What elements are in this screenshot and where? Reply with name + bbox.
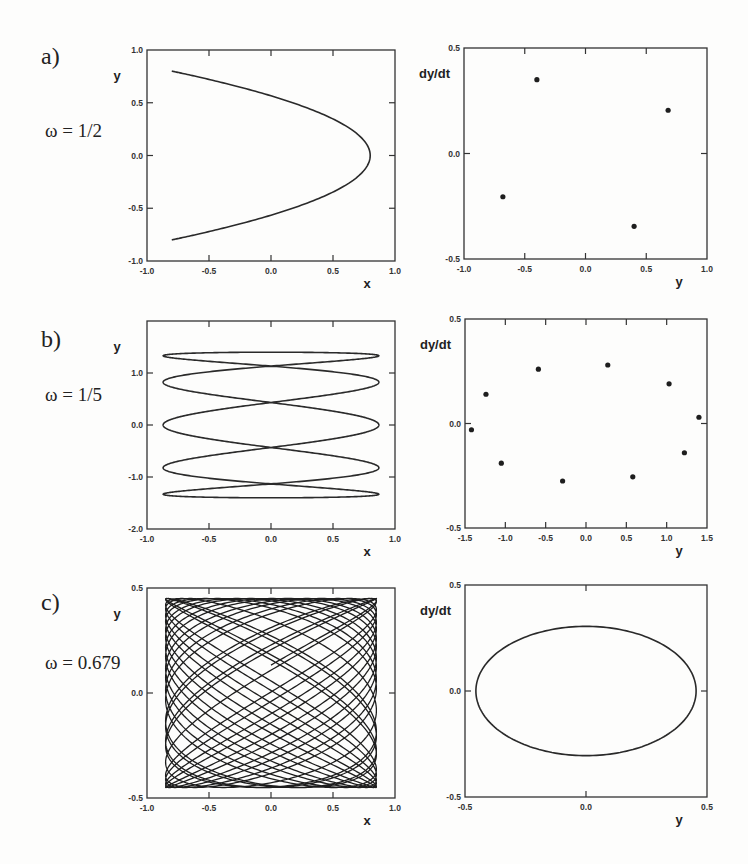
y-tick-label: 0.5 [449,314,461,324]
data-point [500,194,505,199]
y-tick-label: 1.0 [131,368,143,378]
data-point [666,108,671,113]
data-point [605,362,610,367]
trajectory-curve [172,71,370,240]
x-axis-title: x [363,276,371,291]
x-tick-label: 0.0 [580,264,592,274]
data-point [499,461,504,466]
x-tick-label: -1.0 [140,266,155,276]
x-tick-label: 0.0 [265,266,277,276]
x-tick-label: 0.5 [620,533,632,543]
x-tick-label: 0.0 [580,533,592,543]
trajectory-curve [163,352,379,498]
y-tick-label: -1.0 [128,256,143,266]
y-tick-label: 0.0 [448,149,460,159]
x-tick-label: -0.5 [538,533,553,543]
plot-b-phase: -1.5-1.0-0.50.00.51.01.5-0.50.00.5ydy/dt [420,314,713,558]
x-tick-label: 0.5 [327,803,339,813]
x-tick-label: 1.0 [661,533,673,543]
plot-a-xy: -1.0-0.50.00.51.0-1.0-0.50.00.51.0xy [113,45,401,291]
data-point [536,367,541,372]
data-point [696,415,701,420]
data-point [632,224,637,229]
data-point [682,450,687,455]
x-tick-label: -1.5 [458,533,473,543]
x-tick-label: -0.5 [202,534,217,544]
x-tick-label: -1.0 [457,264,472,274]
y-tick-label: 0.0 [449,419,461,429]
y-axis-title: dy/dt [420,603,452,618]
trajectory-curve [166,599,377,788]
y-axis-title: dy/dt [419,66,451,81]
y-tick-label: 0.0 [131,688,143,698]
y-tick-label: -0.5 [128,203,143,213]
plot-c-phase: -0.50.00.5-0.50.00.5ydy/dt [420,580,713,827]
data-point [630,474,635,479]
x-axis-title: x [363,544,371,559]
x-tick-label: 0.5 [640,264,652,274]
x-tick-label: -0.5 [458,802,473,812]
x-tick-label: 0.0 [265,803,277,813]
y-tick-label: -1.0 [128,472,143,482]
figure-canvas: -1.0-0.50.00.51.0-1.0-0.50.00.51.0xy-1.0… [0,0,748,864]
y-tick-label: -2.0 [128,524,143,534]
plot-b-xy: -1.0-0.50.00.51.0-2.0-1.00.01.0xy [113,321,401,559]
x-axis-title: y [675,812,683,827]
x-tick-label: -0.5 [517,264,532,274]
y-tick-label: 0.5 [449,580,461,590]
axes-frame [465,585,707,797]
x-tick-label: -1.0 [498,533,513,543]
x-tick-label: 1.0 [701,264,713,274]
data-point [666,381,671,386]
plot-c-xy: -1.0-0.50.00.51.0-0.50.00.5xy [113,583,401,828]
x-tick-label: 1.0 [389,534,401,544]
x-tick-label: 1.5 [701,533,713,543]
y-tick-label: 0.0 [131,420,143,430]
trajectory-curve [476,626,696,755]
y-tick-label: 1.0 [131,45,143,55]
data-point [469,427,474,432]
data-point [534,77,539,82]
x-tick-label: 0.5 [701,802,713,812]
y-tick-label: 0.5 [131,583,143,593]
x-tick-label: -0.5 [202,266,217,276]
plot-a-phase: -1.0-0.50.00.51.0-0.50.00.5ydy/dt [419,43,713,289]
y-tick-label: 0.0 [131,151,143,161]
x-axis-title: x [363,813,371,828]
data-point [560,478,565,483]
y-axis-title: y [113,339,121,354]
x-tick-label: -1.0 [140,803,155,813]
y-axis-title: y [113,68,121,83]
x-tick-label: 1.0 [389,803,401,813]
y-axis-title: y [113,606,121,621]
x-tick-label: 0.0 [580,802,592,812]
y-tick-label: -0.5 [446,523,461,533]
y-tick-label: -0.5 [128,793,143,803]
y-tick-label: -0.5 [445,254,460,264]
axes-frame [465,319,707,528]
x-tick-label: 1.0 [389,266,401,276]
data-point [483,392,488,397]
x-tick-label: 0.0 [265,534,277,544]
y-tick-label: 0.0 [449,686,461,696]
x-axis-title: y [675,274,683,289]
y-tick-label: -0.5 [446,792,461,802]
x-tick-label: 0.5 [327,266,339,276]
x-axis-title: y [675,543,683,558]
x-tick-label: -0.5 [202,803,217,813]
y-tick-label: 0.5 [448,43,460,53]
axes-frame [464,48,707,259]
y-axis-title: dy/dt [420,337,452,352]
x-tick-label: -1.0 [140,534,155,544]
x-tick-label: 0.5 [327,534,339,544]
axes-frame [147,50,395,261]
y-tick-label: 0.5 [131,98,143,108]
